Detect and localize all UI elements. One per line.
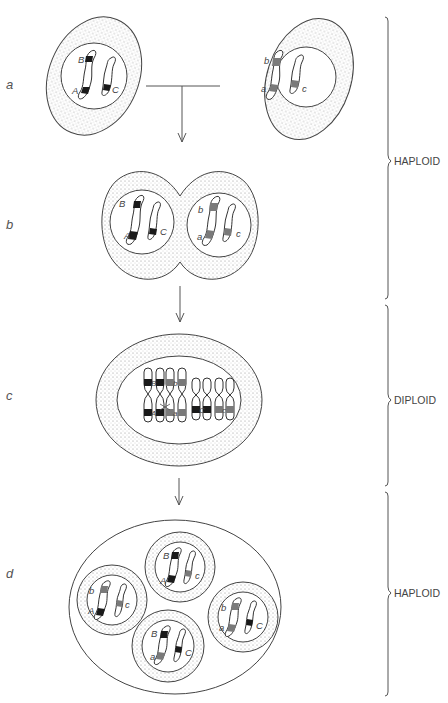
stage-label-b: b xyxy=(6,217,13,232)
allele-label: A xyxy=(87,605,94,616)
bracket-haploid-top: HAPLOID xyxy=(385,17,441,299)
arrow-b-to-c xyxy=(176,286,184,322)
allele-label: B xyxy=(151,379,157,388)
band-b xyxy=(178,379,186,386)
allele-label: C xyxy=(160,226,167,237)
cell-c-diploid: B b A a C c xyxy=(96,334,262,466)
bracket-haploid-bottom: HAPLOID xyxy=(385,492,441,696)
band-B xyxy=(156,379,164,386)
allele-label: c xyxy=(125,599,130,610)
stage-label-d: d xyxy=(6,566,14,581)
allele-label: b xyxy=(198,204,203,215)
fusion-arrow xyxy=(146,86,220,142)
spore-left: b A c xyxy=(77,565,147,635)
spore-top: B A c xyxy=(145,532,215,602)
band-c xyxy=(226,406,234,413)
allele-label: C xyxy=(199,406,205,415)
band-b xyxy=(209,203,218,211)
band-A xyxy=(156,409,164,416)
cell-d-tetrad: B A c b A c b a C xyxy=(69,520,281,694)
allele-label: a xyxy=(197,231,202,242)
stage-label-c: c xyxy=(6,388,13,403)
allele-label: A xyxy=(123,230,130,241)
allele-label: b xyxy=(89,585,94,596)
allele-label: C xyxy=(256,620,263,631)
band-C xyxy=(149,228,157,235)
band-B xyxy=(85,56,93,62)
cell-b-fusing: B A C b a c xyxy=(102,172,258,280)
arrow-c-to-d xyxy=(175,478,183,505)
band-a xyxy=(178,409,186,416)
allele-label: b xyxy=(221,602,226,613)
allele-label: a xyxy=(150,651,155,662)
nucleus xyxy=(276,47,336,107)
allele-label: c xyxy=(302,83,307,94)
band-b xyxy=(272,58,281,66)
allele-label: b xyxy=(264,55,269,66)
cell-a-right: b a c xyxy=(250,7,368,151)
allele-label: A xyxy=(150,409,156,418)
band-B xyxy=(133,201,141,208)
allele-label: a xyxy=(173,409,178,418)
ploidy-label: DIPLOID xyxy=(394,394,436,406)
cell-a-left: B A C xyxy=(29,3,158,150)
allele-label: C xyxy=(185,647,192,658)
allele-label: B xyxy=(78,54,85,65)
allele-label: a xyxy=(219,622,224,633)
stage-label-a: a xyxy=(6,77,13,92)
spore-bottom: B a C xyxy=(132,610,204,682)
ploidy-label: HAPLOID xyxy=(394,587,441,599)
allele-label: B xyxy=(119,198,126,209)
allele-label: A xyxy=(71,85,78,96)
band-c xyxy=(291,80,299,88)
bracket-diploid: DIPLOID xyxy=(385,305,436,486)
allele-label: c xyxy=(236,228,241,239)
ploidy-label: HAPLOID xyxy=(394,155,441,167)
allele-label: C xyxy=(112,84,119,95)
allele-label: c xyxy=(195,570,200,581)
band-c xyxy=(224,228,232,236)
allele-label: c xyxy=(222,406,226,415)
allele-label: a xyxy=(261,83,266,94)
allele-label: b xyxy=(173,379,178,388)
spore-right: b a C xyxy=(208,582,278,652)
allele-label: B xyxy=(151,628,158,639)
allele-label: A xyxy=(159,575,166,586)
diagram-canvas: a b c d B A C b a c xyxy=(0,0,448,703)
allele-label: B xyxy=(163,550,170,561)
